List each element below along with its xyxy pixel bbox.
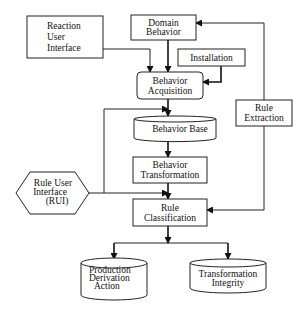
label: Reaction bbox=[47, 21, 81, 31]
node-transformation-integrity: Transformation Integrity bbox=[190, 259, 266, 293]
label: Acquisition bbox=[148, 86, 193, 96]
node-production-derivation-action: Production Derivation Action bbox=[81, 258, 147, 300]
label: Classification bbox=[144, 213, 196, 223]
node-installation: Installation bbox=[178, 49, 245, 66]
node-rule-user-interface: Rule User Interface (RUI) bbox=[16, 172, 89, 214]
label: Transformation bbox=[141, 170, 200, 180]
node-domain-behavior: Domain Behavior bbox=[131, 15, 196, 40]
label: Integrity bbox=[212, 278, 245, 288]
flow-diagram: Reaction User Interface Domain Behavior … bbox=[0, 0, 308, 312]
node-rule-extraction: Rule Extraction bbox=[236, 100, 292, 126]
node-rule-classification: Rule Classification bbox=[133, 199, 207, 226]
label: Behavior bbox=[146, 27, 182, 37]
node-behavior-transformation: Behavior Transformation bbox=[133, 157, 207, 183]
label: Rule bbox=[255, 103, 273, 113]
label: Behavior bbox=[153, 76, 189, 86]
node-reaction-user-interface: Reaction User Interface bbox=[27, 16, 103, 58]
edge-reaction-ui-to-acquisition bbox=[103, 49, 150, 72]
label: Action bbox=[94, 281, 120, 291]
label: Rule bbox=[161, 203, 179, 213]
label: User bbox=[47, 32, 66, 42]
label: (RUI) bbox=[46, 196, 69, 207]
label: Installation bbox=[190, 53, 233, 63]
label: Behavior Base bbox=[152, 124, 208, 134]
label: Behavior bbox=[153, 160, 189, 170]
edge-installation-to-acquisition bbox=[203, 66, 221, 82]
node-behavior-acquisition: Behavior Acquisition bbox=[137, 72, 203, 99]
node-behavior-base: Behavior Base bbox=[134, 116, 216, 142]
label: Interface bbox=[47, 43, 81, 53]
label: Extraction bbox=[244, 113, 284, 123]
